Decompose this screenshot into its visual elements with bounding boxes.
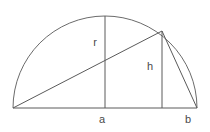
radius-label: r xyxy=(93,36,97,48)
geometry-canvas: r h a b xyxy=(0,0,210,132)
height-label: h xyxy=(147,60,153,72)
hypotenuse-line xyxy=(13,31,162,108)
segment-b-label: b xyxy=(185,113,191,125)
segment-a-label: a xyxy=(99,113,106,125)
geometry-figure: r h a b xyxy=(0,0,210,132)
chord-to-right-vertex-line xyxy=(162,31,197,108)
